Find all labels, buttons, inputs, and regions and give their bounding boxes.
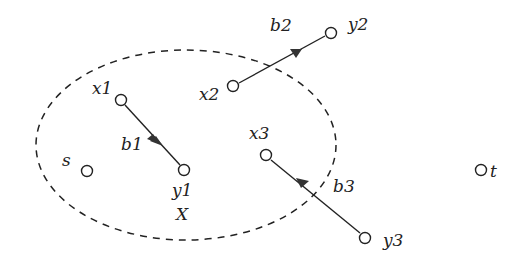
- node-y1: [179, 165, 190, 176]
- label-x1: x1: [92, 78, 112, 98]
- label-x2: x2: [199, 84, 219, 104]
- node-x1: [116, 95, 127, 106]
- label-s: s: [62, 150, 71, 170]
- label-t: t: [490, 161, 497, 181]
- diagram-canvas: s t x1 y1 x2 y2 x3 y3 b1 b2 b3 X: [0, 0, 531, 272]
- edge-b3: [271, 160, 360, 233]
- label-x3: x3: [249, 123, 269, 143]
- label-b3: b3: [333, 176, 355, 196]
- label-y3: y3: [382, 230, 403, 250]
- node-t: [476, 165, 487, 176]
- node-x3: [261, 150, 272, 161]
- node-y2: [326, 28, 337, 39]
- label-region-x: X: [174, 204, 189, 224]
- node-y3: [360, 233, 371, 244]
- label-y2: y2: [347, 14, 368, 34]
- label-b2: b2: [270, 15, 292, 35]
- label-b1: b1: [121, 134, 143, 154]
- label-y1: y1: [171, 180, 192, 200]
- node-s: [82, 166, 93, 177]
- node-x2: [228, 81, 239, 92]
